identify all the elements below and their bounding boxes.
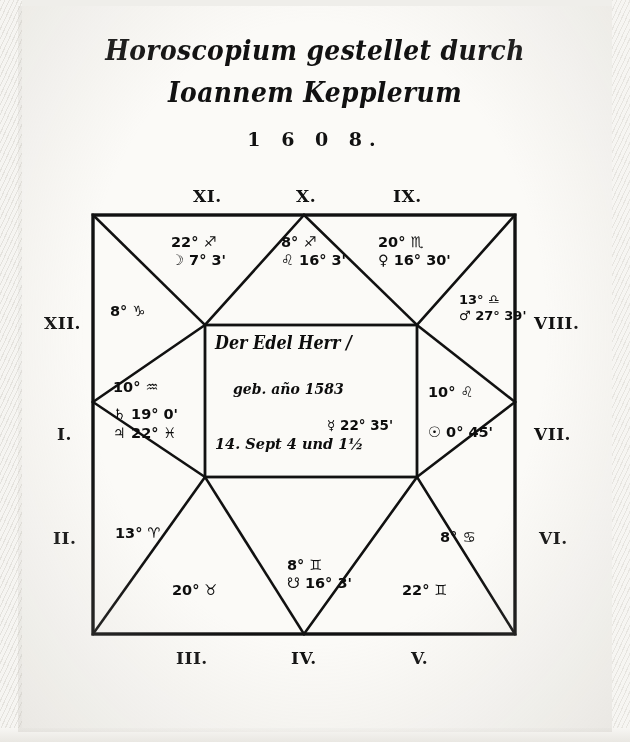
scan-edge-left (0, 0, 22, 742)
title-line-1: Horoscopium gestellet durch (0, 34, 630, 66)
house-iii-cusp: 20° ♉ (172, 581, 217, 599)
house-vii-planet-sun: ☉ 0° 45' (428, 423, 493, 441)
house-numeral-vi: VI. (539, 528, 568, 548)
house-cell-viii: 13° ♎ ♂ 27° 39' (459, 292, 526, 325)
house-viii-planet: ♂ 27° 39' (459, 308, 526, 324)
house-numeral-viii: VIII. (534, 313, 579, 333)
center-note-line-3: 14. Sept 4 und 1½ (215, 434, 363, 452)
house-numeral-iv: IV. (291, 648, 317, 668)
house-vi-cusp: 8° ♋ (440, 528, 475, 546)
house-ix-planet: ♀ 16° 30' (378, 251, 451, 269)
house-numeral-ix: IX. (393, 186, 422, 206)
scan-edge-right (612, 0, 630, 742)
house-cell-i: 10° ♒ ♄ 19° 0' ♃ 22° ♓ (113, 378, 178, 442)
center-note-line-1: Der Edel Herr / (215, 332, 352, 353)
center-note-line-2: geb. año 1583 (233, 380, 344, 397)
house-numeral-iii: III. (176, 648, 208, 668)
house-numeral-i: I. (57, 424, 72, 444)
house-numeral-vii: VII. (534, 424, 571, 444)
house-cell-vi: 8° ♋ (440, 528, 475, 546)
center-note-box: Der Edel Herr / geb. año 1583 14. Sept 4… (205, 325, 417, 477)
house-xi-cusp: 22° ♐ (171, 233, 226, 251)
house-x-cusp: 8° ♐ (281, 233, 346, 251)
house-numeral-xi: XI. (193, 186, 222, 206)
house-cell-vii: 10° ♌ ☉ 0° 45' (428, 383, 493, 441)
house-viii-cusp: 13° ♎ (459, 292, 526, 308)
house-numeral-ii: II. (53, 528, 76, 548)
house-iv-cusp: 8° ♊ (287, 556, 352, 574)
house-cell-xii: 8° ♑ (110, 302, 145, 320)
house-cell-iii: 20° ♉ (172, 581, 217, 599)
house-ii-cusp: 13° ♈ (115, 524, 160, 542)
house-xi-planet: ☽ 7° 3' (171, 251, 226, 269)
house-cell-xi: 22° ♐ ☽ 7° 3' (171, 233, 226, 269)
house-vii-cusp: 10° ♌ (428, 383, 493, 401)
scan-edge-bottom (0, 728, 630, 742)
house-i-planet-saturn: ♄ 19° 0' (113, 405, 178, 423)
house-xii-cusp: 8° ♑ (110, 302, 145, 320)
house-v-cusp: 22° ♊ (402, 581, 447, 599)
house-numeral-x: X. (296, 186, 316, 206)
house-cell-ii: 13° ♈ (115, 524, 160, 542)
house-cell-v: 22° ♊ (402, 581, 447, 599)
house-cell-iv: 8° ♊ ☋ 16° 3' (287, 556, 352, 592)
house-iv-planet: ☋ 16° 3' (287, 574, 352, 592)
house-cell-x: 8° ♐ ♌ 16° 3' (281, 233, 346, 269)
house-ix-cusp: 20° ♏ (378, 233, 451, 251)
title-year: 1 6 0 8. (0, 128, 630, 150)
title-line-2: Ioannem Kepplerum (0, 76, 630, 108)
house-numeral-xii: XII. (44, 313, 81, 333)
center-note-mercury: ☿ 22° 35' (327, 417, 393, 434)
house-i-planet-jupiter: ♃ 22° ♓ (113, 424, 178, 442)
house-numeral-v: V. (411, 648, 428, 668)
house-x-planet: ♌ 16° 3' (281, 251, 346, 269)
house-i-cusp: 10° ♒ (113, 378, 178, 396)
house-cell-ix: 20° ♏ ♀ 16° 30' (378, 233, 451, 269)
scanned-page: Horoscopium gestellet durch Ioannem Kepp… (0, 0, 630, 742)
